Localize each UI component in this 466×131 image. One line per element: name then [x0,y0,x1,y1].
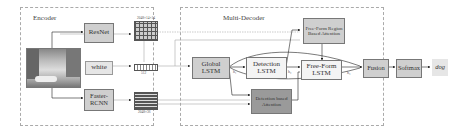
feature-map-dim: 2048×14×14 [137,16,155,20]
fusion-box: Fusion [363,59,389,78]
faster-rcnn-box: Faster-RCNN [84,89,114,111]
global-lstm-label: Global LSTM [196,61,226,76]
detection-attention-box: Detection based Attention [251,89,292,114]
region-feature-dim: 2048×36 [138,110,150,114]
freeform-attention-label: Free-Form Region Based Attention [305,26,343,37]
softmax-box: Softmax [396,59,422,78]
input-image [26,48,81,88]
h3-label: h₃ [347,70,350,75]
freeform-attention-box: Free-Form Region Based Attention [303,18,345,44]
region-features-icon [134,92,158,110]
output-word-box: dog [432,59,448,76]
text-input-box: white [85,61,113,75]
word-embedding-icon [134,64,158,71]
detection-lstm-box: Detection LSTM [246,57,287,79]
word-embed-dim: 512 [141,71,146,75]
h1-label: h₁ [233,69,236,74]
feature-map-icon [134,21,158,41]
freeform-lstm-label: Free-Form LSTM [305,63,339,78]
detection-lstm-label: Detection LSTM [250,61,284,76]
resnet-box: ResNet [84,23,114,43]
detection-attention-label: Detection based Attention [254,96,290,107]
freeform-lstm-box: Free-Form LSTM [301,60,342,80]
h2-label: h₂ [288,69,291,74]
global-lstm-box: Global LSTM [192,57,230,79]
